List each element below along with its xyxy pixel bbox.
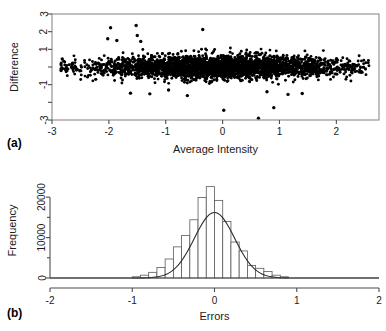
histogram-bar — [247, 265, 255, 278]
y-axis-title: Difference — [8, 42, 20, 92]
x-tick-label: -1 — [128, 295, 137, 306]
histogram-bar — [231, 242, 239, 278]
y-tick-label: 10000 — [37, 223, 48, 251]
y-tick-label: -1 — [39, 80, 50, 89]
histogram-bar — [215, 200, 223, 278]
histogram-bars-group — [132, 187, 288, 278]
histogram-bar — [165, 259, 173, 278]
y-tick-label: 2 — [39, 28, 50, 34]
figure-container: -3-1123-3-2-1012Average IntensityDiffere… — [0, 0, 386, 331]
x-tick-label: 2 — [376, 295, 382, 306]
y-tick-label: 20000 — [37, 183, 48, 211]
x-tick-label: -2 — [104, 126, 113, 137]
panel-b-histogram: 01000020000-2-1012ErrorsFrequency — [0, 165, 386, 331]
panel-b-label: (b) — [7, 306, 22, 320]
x-axis-title: Errors — [200, 310, 230, 322]
x-tick-label: -2 — [46, 295, 55, 306]
y-tick-label: 0 — [37, 275, 48, 281]
histogram-bar — [190, 220, 198, 278]
x-tick-label: 1 — [277, 126, 283, 137]
x-axis-title: Average Intensity — [173, 143, 258, 155]
histogram-bar — [206, 187, 214, 278]
y-axis-title: Frequency — [6, 204, 18, 256]
x-tick-label: 0 — [212, 295, 218, 306]
x-tick-label: 0 — [220, 126, 226, 137]
y-tick-label: -3 — [39, 115, 50, 124]
x-tick-label: 1 — [294, 295, 300, 306]
scatter-plot-svg: -3-1123-3-2-1012Average IntensityDiffere… — [0, 0, 386, 170]
y-tick-label: 3 — [39, 11, 50, 17]
histogram-plot-svg: 01000020000-2-1012ErrorsFrequency — [0, 165, 386, 331]
y-tick-label: 1 — [39, 46, 50, 52]
panel-a-scatter: -3-1123-3-2-1012Average IntensityDiffere… — [0, 0, 386, 170]
scatter-points-group — [59, 24, 370, 120]
panel-a-label: (a) — [7, 136, 22, 150]
x-tick-label: -3 — [48, 126, 57, 137]
x-tick-label: -1 — [161, 126, 170, 137]
histogram-bar — [182, 236, 190, 278]
x-tick-label: 2 — [334, 126, 340, 137]
histogram-bar — [198, 198, 206, 278]
